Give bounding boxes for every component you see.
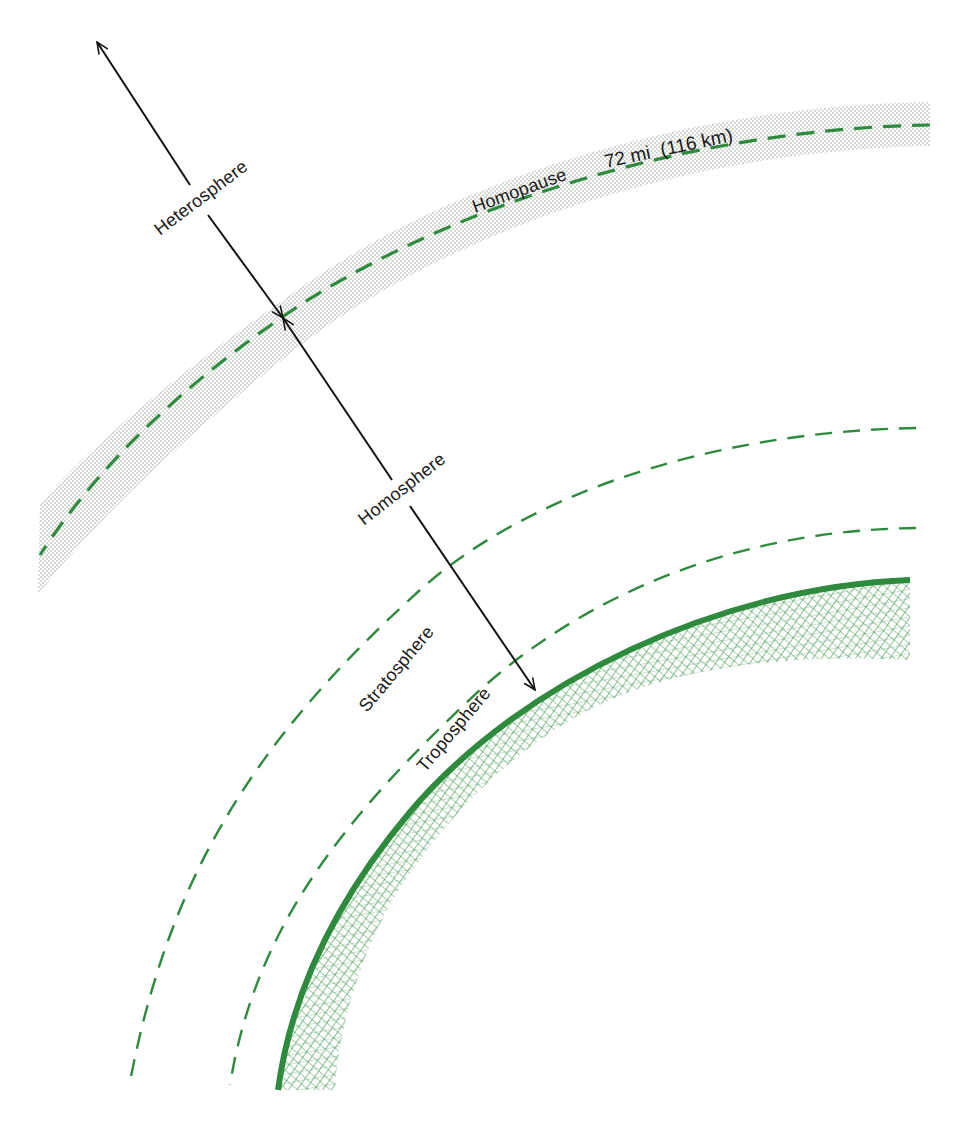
- heterosphere-arrow-lower: [208, 215, 283, 318]
- stratopause-dashed-arc: [130, 428, 916, 1082]
- atmosphere-diagram: Heterosphere Homopause 72 mi (116 km) Ho…: [0, 0, 957, 1144]
- label-homosphere: Homosphere: [354, 449, 449, 529]
- homopause-band: [38, 102, 930, 595]
- label-heterosphere: Heterosphere: [150, 156, 251, 239]
- heterosphere-arrow-upper: [97, 42, 190, 185]
- homosphere-arrow-upper: [283, 318, 392, 480]
- earth-surface-hatching: [250, 560, 950, 1120]
- label-stratosphere: Stratosphere: [355, 622, 438, 716]
- homosphere-arrow-lower: [410, 506, 535, 690]
